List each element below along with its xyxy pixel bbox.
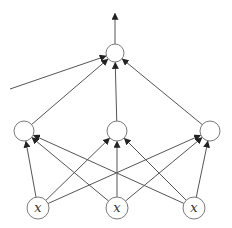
output-node xyxy=(106,44,124,62)
edge-x1-to-h1 xyxy=(26,141,36,197)
edge-x1-to-h2 xyxy=(46,138,110,200)
edge-h2-to-o1 xyxy=(115,62,117,121)
edge-x2-to-h3 xyxy=(125,138,201,201)
node-label: x xyxy=(34,200,42,215)
node-label: x xyxy=(190,200,198,215)
hidden-node xyxy=(107,121,127,141)
input-node: x xyxy=(27,197,49,219)
hidden-node-circle xyxy=(200,121,220,141)
edge-x2-to-h1 xyxy=(32,138,108,201)
hidden-node-circle xyxy=(107,121,127,141)
input-node: x xyxy=(183,197,205,219)
neural-network-diagram: xxx xyxy=(0,0,232,228)
input-node: x xyxy=(106,197,128,219)
hidden-node-circle xyxy=(14,121,34,141)
hidden-node xyxy=(14,121,34,141)
edge-x3-to-h1 xyxy=(34,135,184,203)
edge-h3-to-o1 xyxy=(122,59,202,125)
edge-x3-to-h3 xyxy=(196,141,208,197)
hidden-node xyxy=(200,121,220,141)
node-label: x xyxy=(113,200,121,215)
output-node-circle xyxy=(106,44,124,62)
